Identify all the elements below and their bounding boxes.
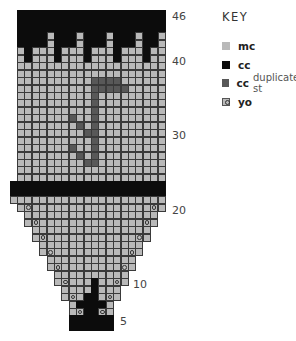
- key-label-cc: cc: [238, 59, 250, 71]
- key-label-mc: mc: [238, 40, 255, 52]
- row-label-20: 20: [172, 205, 186, 216]
- chart-cell: [106, 323, 114, 331]
- yo-circle-icon: [56, 265, 61, 270]
- key-legend: KEY mc cc cc duplicate st yo: [222, 10, 296, 111]
- yo-circle-icon: [130, 250, 135, 255]
- knitting-chart: 46403020105: [0, 0, 200, 341]
- row-label-30: 30: [172, 130, 186, 141]
- yo-circle-icon: [145, 220, 150, 225]
- key-sublabel-duplicate: duplicate st: [253, 72, 296, 94]
- yo-circle-icon: [34, 220, 39, 225]
- key-label-cc-duplicate: cc: [237, 77, 249, 89]
- key-title: KEY: [222, 10, 296, 24]
- chart-cell: [113, 293, 121, 301]
- yo-circle-icon: [222, 98, 230, 106]
- row-label-10: 10: [133, 279, 147, 290]
- key-item-mc: mc: [222, 37, 296, 56]
- yo-circle-icon: [100, 310, 105, 315]
- key-item-cc: cc: [222, 56, 296, 75]
- row-label-40: 40: [172, 56, 186, 67]
- cc-swatch-icon: [222, 61, 230, 69]
- row-label-46: 46: [172, 11, 186, 22]
- chart-cell: [150, 219, 158, 227]
- yo-circle-icon: [26, 205, 31, 210]
- row-label-5: 5: [120, 316, 127, 327]
- yo-circle-icon: [48, 250, 53, 255]
- chart-cell: [135, 248, 143, 256]
- mc-swatch-icon: [222, 42, 230, 50]
- chart-cell: [128, 263, 136, 271]
- yo-circle-icon: [137, 235, 142, 240]
- key-label-yo: yo: [238, 96, 252, 108]
- chart-cell: [158, 204, 166, 212]
- chart-cell: [143, 234, 151, 242]
- key-item-cc-duplicate: cc duplicate st: [222, 74, 296, 93]
- key-item-yo: yo: [222, 93, 296, 112]
- chart-cell: [121, 278, 129, 286]
- yo-circle-icon: [122, 265, 127, 270]
- cc-duplicate-swatch-icon: [222, 79, 229, 87]
